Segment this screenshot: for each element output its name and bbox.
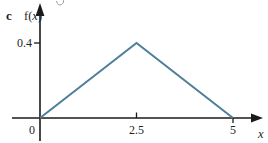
y-tick-label: 0.4 [17,36,32,50]
function-line [40,43,233,118]
panel-label: c [6,8,12,23]
stray-mark [57,0,64,5]
x-tick-label: 5 [230,123,236,137]
origin-label: 0 [29,123,35,137]
y-axis-label: f(x) [24,9,42,23]
figure-panel: 2.550.4 c f(x) 0 x [0,0,268,143]
x-tick-label: 2.5 [129,123,144,137]
function-chart: 2.550.4 c f(x) 0 x [0,0,268,143]
y-axis-label-pre: f( [24,9,32,23]
y-axis-label-post: ) [38,9,42,23]
x-axis-label: x [257,127,264,141]
x-axis-arrow-icon [251,114,263,123]
